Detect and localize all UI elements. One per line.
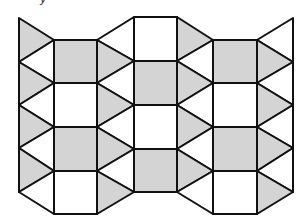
square-tile-white <box>213 171 257 214</box>
square-tile-white <box>134 17 177 61</box>
square-tile-white <box>54 171 97 214</box>
square-tile-gray <box>134 61 177 105</box>
square-tile-gray <box>54 40 97 83</box>
tessellation-diagram <box>0 0 299 221</box>
square-tile-white <box>134 105 177 149</box>
square-tile-gray <box>54 127 97 171</box>
square-tile-gray <box>213 127 257 171</box>
square-tile-white <box>213 83 257 127</box>
square-tile-gray <box>134 149 177 192</box>
square-tile-gray <box>213 40 257 83</box>
square-tile-white <box>54 83 97 127</box>
